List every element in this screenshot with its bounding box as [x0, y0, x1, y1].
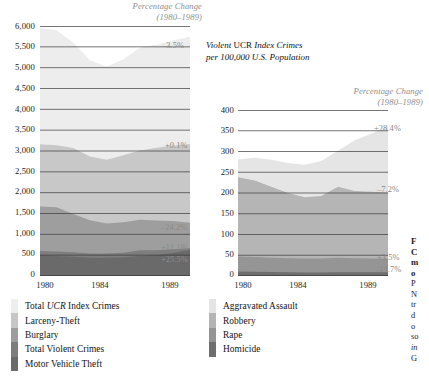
caption-line-8: d	[411, 311, 429, 322]
left-pct-total-ucr: –3.5%	[162, 41, 184, 50]
legend-label-motor-vehicle-theft: Motor Vehicle Theft	[25, 359, 102, 369]
legend-label-homicide: Homicide	[223, 344, 260, 354]
legend-swatch-icon-rape	[209, 328, 216, 342]
legend-swatch-icon-total-ucr	[11, 299, 18, 313]
left-xtick-1984: 1984	[82, 280, 118, 290]
left-xtick-1989: 1989	[152, 280, 188, 290]
middle-note-line2: per 100,000 U.S. Population	[206, 52, 310, 64]
left-ytick-6000: 6,000	[0, 21, 35, 31]
legend-label-total-ucr-index-crimes: Total UCR Index Crimes	[25, 301, 119, 311]
right-chart-plot	[238, 110, 388, 276]
legend-swatch-icon-burglary	[11, 328, 18, 342]
caption-line-12: G	[411, 354, 429, 365]
right-xtick-1984: 1984	[280, 280, 316, 290]
legend-item-burglary[interactable]: Burglary	[11, 328, 119, 342]
left-ytick-5000: 5,000	[0, 62, 35, 72]
left-ytick-500: 500	[0, 248, 35, 258]
right-ytick-250: 250	[205, 167, 234, 177]
left-pct-total-violent: +11.1%	[161, 243, 188, 252]
caption-line-6: N	[411, 290, 429, 301]
caption-line-10: so	[411, 332, 429, 343]
legend-swatch-icon-homicide	[209, 342, 216, 356]
right-ytick-150: 150	[205, 208, 234, 218]
middle-note-violent: Violent	[206, 40, 231, 50]
left-ytick-2500: 2,500	[0, 166, 35, 176]
caption-line-7: tr	[411, 300, 429, 311]
left-header: Percentage Change (1980–1989)	[92, 1, 202, 22]
right-pct-rape: +3.5%	[377, 253, 400, 262]
right-xtick-1989: 1989	[350, 280, 386, 290]
right-pct-homicide: –14.7%	[375, 265, 401, 274]
legend-label-rape: Rape	[223, 330, 242, 340]
left-ytick-0: 0	[0, 269, 35, 279]
right-header: Percentage Change (1980–1989)	[318, 86, 423, 107]
left-ytick-4500: 4,500	[0, 83, 35, 93]
legend-label-robbery: Robbery	[223, 316, 256, 326]
right-ytick-200: 200	[205, 187, 234, 197]
right-pct-aggravated-assault: +28.4%	[374, 124, 401, 133]
legend-item-total-violent-crimes[interactable]: Total Violent Crimes	[11, 342, 119, 356]
left-ytick-1000: 1,000	[0, 228, 35, 238]
right-ytick-300: 300	[205, 146, 234, 156]
legend-item-larceny-theft[interactable]: Larceny-Theft	[11, 313, 119, 327]
legend-item-aggravated-assault[interactable]: Aggravated Assault	[209, 299, 298, 313]
left-ytick-5500: 5,500	[0, 41, 35, 51]
middle-note-index-crimes: Index Crimes	[254, 40, 302, 50]
legend-label-aggravated-assault: Aggravated Assault	[223, 301, 298, 311]
caption-line-11: in	[411, 343, 429, 354]
right-ytick-0: 0	[205, 269, 234, 279]
legend-swatch-icon-aggravated-assault	[209, 299, 216, 313]
caption-line-1: F	[411, 236, 429, 247]
left-chart-plot	[40, 26, 190, 276]
legend-item-rape[interactable]: Rape	[209, 328, 298, 342]
right-ytick-100: 100	[205, 229, 234, 239]
caption-line-9: o	[411, 322, 429, 333]
left-xtick-1980: 1980	[27, 280, 63, 290]
figure-root: Percentage Change (1980–1989) Violent UC…	[0, 0, 429, 377]
right-header-line2: (1980–1989)	[318, 97, 423, 108]
left-ytick-2000: 2,000	[0, 186, 35, 196]
caption-line-2: C	[411, 247, 429, 258]
middle-note-ucr: UCR	[234, 40, 253, 50]
caption-line-5: P	[411, 279, 429, 290]
left-chart-svg	[40, 26, 190, 276]
left-ytick-4000: 4,000	[0, 104, 35, 114]
legend-swatch-icon-motor-vehicle-theft	[11, 357, 18, 371]
right-header-line1: Percentage Change	[318, 86, 423, 97]
caption-line-4: o	[411, 268, 429, 279]
legend-swatch-icon-total-violent-crimes	[11, 342, 18, 356]
left-ytick-1500: 1,500	[0, 207, 35, 217]
middle-note: Violent UCR Index Crimes per 100,000 U.S…	[206, 40, 310, 63]
legend-item-homicide[interactable]: Homicide	[209, 342, 298, 356]
left-ytick-3500: 3,500	[0, 124, 35, 134]
legend-label-burglary: Burglary	[25, 330, 59, 340]
right-xtick-1980: 1980	[225, 280, 261, 290]
right-pct-robbery: –7.2%	[377, 185, 399, 194]
right-ytick-400: 400	[205, 105, 234, 115]
left-pct-motor-vehicle: +25.5%	[161, 255, 188, 264]
right-ytick-350: 350	[205, 125, 234, 135]
left-ytick-3000: 3,000	[0, 145, 35, 155]
legend-item-robbery[interactable]: Robbery	[209, 313, 298, 327]
left-header-line2: (1980–1989)	[92, 12, 202, 23]
legend-label-total-violent-crimes: Total Violent Crimes	[25, 344, 104, 354]
right-ytick-50: 50	[205, 249, 234, 259]
legend-swatch-icon-larceny-theft	[11, 313, 18, 327]
middle-note-line1: Violent UCR Index Crimes	[206, 40, 310, 52]
legend-item-total-ucr-index-crimes[interactable]: Total UCR Index Crimes	[11, 299, 119, 313]
right-chart-svg	[238, 110, 388, 276]
legend-item-motor-vehicle-theft[interactable]: Motor Vehicle Theft	[11, 357, 119, 371]
right-legend: Aggravated Assault Robbery Rape Homicide	[209, 299, 298, 357]
legend-swatch-icon-robbery	[209, 313, 216, 327]
left-legend: Total UCR Index Crimes Larceny-Theft Bur…	[11, 299, 119, 371]
left-header-line1: Percentage Change	[92, 1, 202, 12]
left-pct-larceny-theft: +0.1%	[165, 141, 188, 150]
left-pct-burglary: –24.2%	[161, 223, 187, 232]
caption-line-3: m	[411, 257, 429, 268]
legend-label-larceny-theft: Larceny-Theft	[25, 316, 80, 326]
figure-caption: F C m o P N tr d o so in G	[411, 236, 429, 376]
